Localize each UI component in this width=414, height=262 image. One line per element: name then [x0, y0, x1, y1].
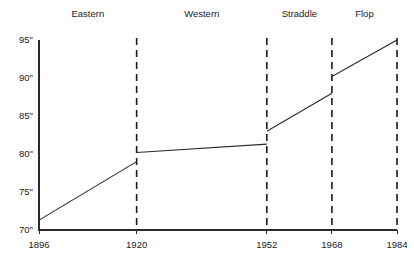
- chart-axes: [39, 40, 397, 230]
- y-axis-tick-labels: 95"90"85"80"75"70": [19, 34, 33, 235]
- x-axis-tick-label: 1896: [28, 239, 49, 250]
- era-divider-lines: [137, 38, 397, 230]
- x-axis-tick-label: 1984: [386, 239, 407, 250]
- record-line-segment: [39, 162, 137, 221]
- y-axis-tick-label: 85": [19, 110, 33, 121]
- track-field-high-jump-chart: 95"90"85"80"75"70" 18961920195219681984 …: [0, 0, 414, 262]
- x-axis-tick-label: 1968: [321, 239, 342, 250]
- x-axis-tick-labels: 18961920195219681984: [28, 239, 407, 250]
- record-line-segment: [332, 40, 397, 76]
- era-category-labels: EasternWesternStraddleFlop: [71, 8, 373, 19]
- era-label: Eastern: [71, 8, 104, 19]
- axis-lines: [39, 40, 397, 230]
- chart-plot-area: 95"90"85"80"75"70" 18961920195219681984 …: [0, 0, 414, 262]
- record-line-segment: [267, 93, 332, 131]
- y-axis-tick-label: 75": [19, 186, 33, 197]
- era-label: Western: [184, 8, 219, 19]
- y-axis-tick-label: 80": [19, 148, 33, 159]
- y-axis-tick-label: 95": [19, 34, 33, 45]
- x-axis-tick-label: 1952: [256, 239, 277, 250]
- high-jump-record-series: [39, 40, 397, 220]
- era-label: Flop: [355, 8, 373, 19]
- y-axis-tick-label: 90": [19, 72, 33, 83]
- y-axis-tick-label: 70": [19, 224, 33, 235]
- x-axis-tick-label: 1920: [126, 239, 147, 250]
- era-label: Straddle: [282, 8, 317, 19]
- record-line-segment: [137, 144, 267, 152]
